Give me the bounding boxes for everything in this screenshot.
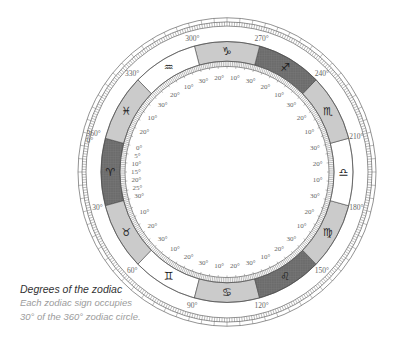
aries-glyph-icon: ♈︎ — [106, 166, 116, 179]
inner-degree-label-leo: 10° — [261, 253, 271, 261]
degree-tick-marks — [78, 18, 376, 326]
caption-title: Degrees of the zodiac — [20, 283, 141, 296]
inner-degree-label-taurus: 10° — [140, 208, 150, 216]
inner-degree-label-leo: 30° — [286, 235, 296, 243]
outer-degree-label: 240° — [315, 69, 329, 78]
inner-degree-label-aries: 20° — [131, 176, 141, 184]
outer-degree-label: 0° — [87, 136, 94, 145]
inner-degree-label-aquarius: 10° — [184, 83, 194, 91]
inner-degree-label-aquarius: 20° — [170, 91, 180, 99]
outer-degree-label: 270° — [255, 34, 269, 43]
outer-degree-labels: 360°0°30°60°90°120°150°180°210°240°270°3… — [87, 34, 364, 311]
gemini-glyph-icon: ♊︎ — [164, 270, 174, 283]
inner-degree-label-capricorn: 10° — [230, 74, 240, 82]
leo-glyph-icon: ♌︎ — [280, 270, 290, 283]
inner-degree-label-aries: 5° — [134, 152, 141, 160]
outer-degree-label: 180° — [349, 203, 363, 212]
inner-degree-label-aries: 10° — [131, 160, 141, 168]
inner-degree-label-libra: 20° — [313, 160, 323, 168]
inner-degree-label-pisces: 20° — [140, 128, 150, 136]
inner-degree-label-aries: 25° — [132, 184, 142, 192]
caption-line-1: Each zodiac sign occupies — [20, 296, 141, 310]
virgo-glyph-icon: ♍︎ — [323, 226, 333, 239]
inner-degree-label-aries: 0° — [136, 144, 143, 152]
outer-degree-label: 210° — [349, 132, 363, 141]
outer-degree-label: 90° — [187, 301, 198, 310]
aquarius-glyph-icon: ♒︎ — [164, 61, 174, 74]
inner-degree-label-cancer: 20° — [230, 262, 240, 270]
scorpio-glyph-icon: ♏︎ — [323, 105, 333, 118]
inner-degree-label-taurus: 30° — [158, 235, 168, 243]
inner-degree-label-gemini: 10° — [170, 245, 180, 253]
inner-degree-label-pisces: 10° — [148, 114, 158, 122]
inner-degree-label-sagittarius: 30° — [246, 77, 256, 85]
inner-degree-label-virgo: 10° — [297, 222, 307, 230]
outer-degree-label: 330° — [125, 69, 139, 78]
figure-caption: Degrees of the zodiac Each zodiac sign o… — [20, 283, 141, 323]
capricorn-glyph-icon: ♑︎ — [222, 45, 232, 58]
inner-degree-label-taurus: 20° — [148, 222, 158, 230]
inner-degree-label-sagittarius: 20° — [261, 83, 271, 91]
inner-degree-labels: 0°5°10°15°20°25°30°10°20°30°10°20°30°10°… — [131, 74, 323, 270]
inner-degree-label-cancer: 10° — [214, 262, 224, 270]
outer-degree-label: 300° — [185, 34, 199, 43]
outer-degree-label: 120° — [255, 301, 269, 310]
cancer-glyph-icon: ♋︎ — [222, 286, 232, 299]
inner-degree-label-libra: 10° — [313, 176, 323, 184]
inner-tick-marks — [120, 61, 334, 282]
inner-degree-label-capricorn: 20° — [214, 74, 224, 82]
caption-line-2: 30° of the 360° zodiac circle. — [20, 310, 141, 324]
inner-degree-label-gemini: 20° — [184, 253, 194, 261]
inner-degree-label-virgo: 20° — [305, 208, 315, 216]
outer-degree-label: 30° — [92, 203, 103, 212]
inner-degree-label-cancer: 30° — [246, 259, 256, 267]
inner-degree-label-gemini: 30° — [199, 259, 209, 267]
inner-degree-label-virgo: 30° — [310, 192, 320, 200]
inner-degree-label-libra: 30° — [310, 144, 320, 152]
inner-degree-label-aries: 30° — [134, 192, 144, 200]
inner-degree-label-aries: 15° — [131, 168, 141, 176]
pisces-glyph-icon: ♓︎ — [121, 105, 131, 118]
inner-degree-label-scorpio: 30° — [286, 101, 296, 109]
inner-degree-label-aquarius: 30° — [158, 101, 168, 109]
inner-degree-label-sagittarius: 10° — [274, 91, 284, 99]
outer-degree-label: 150° — [315, 266, 329, 275]
outer-degree-label: 60° — [127, 266, 138, 275]
inner-degree-label-scorpio: 10° — [305, 128, 315, 136]
libra-glyph-icon: ♎︎ — [339, 166, 349, 179]
sagittarius-glyph-icon: ♐︎ — [280, 61, 290, 74]
inner-degree-label-scorpio: 20° — [297, 114, 307, 122]
inner-degree-label-leo: 20° — [274, 245, 284, 253]
inner-degree-label-capricorn: 30° — [199, 77, 209, 85]
taurus-glyph-icon: ♉︎ — [121, 226, 131, 239]
